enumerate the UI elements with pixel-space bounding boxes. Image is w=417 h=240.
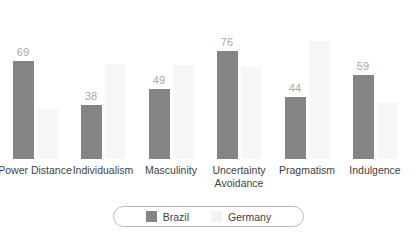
bar-germany-individualism[interactable] (105, 64, 126, 159)
bar-value-brazil-power-distance: 69 (17, 46, 30, 58)
bar-germany-pragmatism[interactable] (309, 41, 330, 159)
category-label-individualism: Individualism (64, 164, 142, 177)
bar-value-brazil-masculinity: 49 (153, 74, 166, 86)
bar-germany-uncertainty-avoidance[interactable] (241, 67, 262, 159)
bar-germany-indulgence[interactable] (377, 102, 398, 159)
bar-brazil-uncertainty-avoidance[interactable]: 76 (217, 51, 238, 159)
category-label-masculinity: Masculinity (132, 164, 210, 177)
legend-label-germany: Germany (228, 211, 271, 223)
bar-pair: 49 (138, 0, 204, 159)
bar-group-uncertainty-avoidance: 76 (206, 0, 272, 159)
category-label-indulgence: Indulgence (336, 164, 414, 177)
bar-pair: 76 (206, 0, 272, 159)
bar-brazil-indulgence[interactable]: 59 (353, 75, 374, 159)
bar-value-brazil-pragmatism: 44 (289, 82, 302, 94)
plot-area: 69 38 49 (0, 0, 417, 159)
legend-item-germany[interactable]: Germany (211, 211, 271, 223)
legend-item-brazil[interactable]: Brazil (146, 211, 189, 223)
chart-legend: Brazil Germany (113, 206, 304, 227)
bar-germany-power-distance[interactable] (37, 109, 58, 159)
bar-group-indulgence: 59 (342, 0, 408, 159)
category-label-uncertainty-avoidance: Uncertainty Avoidance (200, 164, 278, 189)
bar-pair: 44 (274, 0, 340, 159)
bar-value-brazil-indulgence: 59 (357, 60, 370, 72)
bar-brazil-pragmatism[interactable]: 44 (285, 97, 306, 159)
legend-label-brazil: Brazil (163, 211, 189, 223)
bar-brazil-masculinity[interactable]: 49 (149, 89, 170, 159)
category-axis: Power Distance Individualism Masculinity… (0, 164, 417, 198)
grouped-bar-chart: 69 38 49 (0, 0, 417, 240)
legend-swatch-brazil-icon (146, 211, 157, 222)
bar-pair: 69 (2, 0, 68, 159)
category-label-power-distance: Power Distance (0, 164, 74, 177)
category-label-pragmatism: Pragmatism (268, 164, 346, 177)
bar-brazil-individualism[interactable]: 38 (81, 105, 102, 159)
bar-brazil-power-distance[interactable]: 69 (13, 61, 34, 159)
bar-group-individualism: 38 (70, 0, 136, 159)
legend-swatch-germany-icon (211, 211, 222, 222)
bar-value-brazil-uncertainty-avoidance: 76 (221, 36, 234, 48)
bar-group-power-distance: 69 (2, 0, 68, 159)
bar-germany-masculinity[interactable] (173, 65, 194, 159)
bar-pair: 38 (70, 0, 136, 159)
bar-value-brazil-individualism: 38 (85, 90, 98, 102)
bar-group-pragmatism: 44 (274, 0, 340, 159)
bar-group-masculinity: 49 (138, 0, 204, 159)
bar-pair: 59 (342, 0, 408, 159)
